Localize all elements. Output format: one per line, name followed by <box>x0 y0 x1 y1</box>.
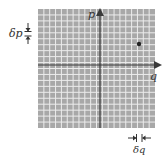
phase-space-diagram: p q δp δq <box>0 0 166 155</box>
delta-q-arrows-icon <box>128 134 151 142</box>
grid-lines <box>38 9 155 128</box>
q-axis-label: q <box>150 70 157 83</box>
p-axis-label: p <box>88 8 95 21</box>
delta-q-label: δq <box>133 144 145 155</box>
delta-p-arrows-icon <box>25 23 32 44</box>
delta-p-label: δp <box>9 27 23 40</box>
state-point <box>137 42 141 46</box>
q-axis-arrow-icon <box>154 61 162 69</box>
